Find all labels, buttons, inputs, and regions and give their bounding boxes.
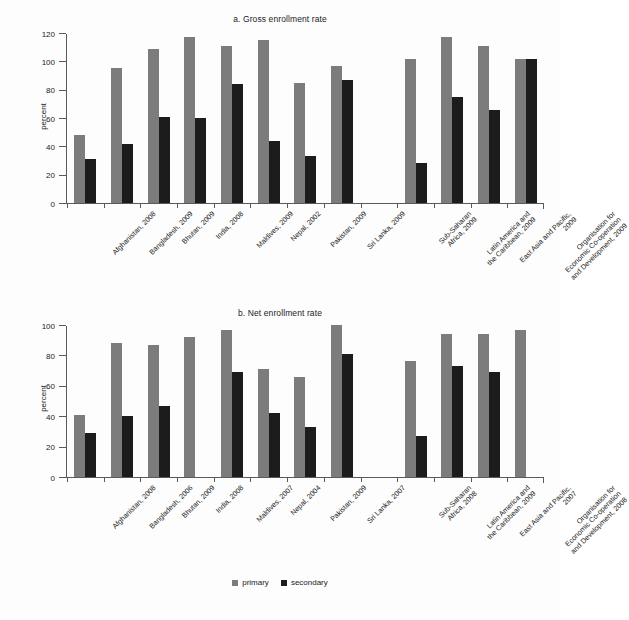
- bar-primary: [148, 49, 159, 203]
- bar-primary: [221, 46, 232, 203]
- bar-secondary: [122, 416, 133, 477]
- y-tick: 40: [59, 416, 66, 417]
- x-axis-label-group-a: Afghanistan, 2008Bangladesh, 2009Bhutan,…: [66, 206, 544, 296]
- bar-primary: [294, 377, 305, 477]
- y-tick: 60: [59, 118, 66, 119]
- bar-secondary: [232, 372, 243, 477]
- bar-secondary: [342, 354, 353, 477]
- bar-group: [507, 34, 544, 203]
- x-axis-label: Sri Lanka, 2009: [366, 210, 408, 252]
- y-tick-label: 40: [46, 412, 55, 421]
- bar-group: [214, 34, 251, 203]
- bar-primary: [184, 337, 195, 477]
- bar-group: [250, 326, 287, 477]
- legend-swatch-primary-icon: [232, 580, 238, 586]
- y-tick: 60: [59, 386, 66, 387]
- bar-primary: [148, 345, 159, 477]
- y-tick-label: 80: [46, 86, 55, 95]
- x-axis-label: Sub-Saharan Africa, 2009: [437, 210, 479, 252]
- y-tick: 100: [59, 61, 66, 62]
- bar-primary: [441, 334, 452, 477]
- bar-secondary: [305, 156, 316, 203]
- bar-secondary: [305, 427, 316, 477]
- bar-secondary: [489, 372, 500, 477]
- bar-group: [250, 34, 287, 203]
- y-tick-label: 80: [46, 351, 55, 360]
- bar-primary: [441, 37, 452, 203]
- bar-secondary: [85, 433, 96, 477]
- x-axis-label: Maldives, 2007: [255, 484, 295, 524]
- bar-group: [140, 34, 177, 203]
- bar-group: [214, 326, 251, 477]
- x-axis-line-b: [66, 477, 544, 478]
- y-tick: 80: [59, 90, 66, 91]
- bar-group-container-b: [67, 326, 544, 477]
- bar-primary: [331, 66, 342, 203]
- y-tick: 80: [59, 355, 66, 356]
- bar-primary: [221, 330, 232, 477]
- bar-primary: [294, 83, 305, 203]
- bar-group: [434, 326, 471, 477]
- legend-item-secondary: secondary: [281, 578, 328, 587]
- bar-secondary: [526, 59, 537, 204]
- bar-secondary: [452, 366, 463, 477]
- bar-primary: [74, 415, 85, 477]
- bar-secondary: [489, 110, 500, 204]
- x-axis-line-a: [66, 203, 544, 204]
- bar-primary: [515, 59, 526, 204]
- legend-item-primary: primary: [232, 578, 269, 587]
- chart-panel-net-enrollment: b. Net enrollment rate percent 020406080…: [0, 308, 560, 578]
- bar-primary: [74, 135, 85, 203]
- y-tick: 0: [59, 203, 66, 204]
- bar-primary: [405, 361, 416, 477]
- bar-group: [397, 34, 434, 203]
- bar-group: [471, 326, 508, 477]
- bar-secondary: [232, 84, 243, 203]
- bar-group: [471, 34, 508, 203]
- legend-swatch-secondary-icon: [281, 580, 287, 586]
- bar-primary: [258, 40, 269, 203]
- bar-group: [287, 326, 324, 477]
- y-tick: 20: [59, 447, 66, 448]
- y-tick-label: 0: [51, 473, 55, 482]
- chart-panel-gross-enrollment: a. Gross enrollment rate percent 0204060…: [0, 14, 560, 304]
- y-tick-label: 100: [42, 321, 55, 330]
- bar-group: [507, 326, 544, 477]
- bar-primary: [111, 68, 122, 203]
- x-axis-label: Maldives, 2009: [255, 210, 295, 250]
- plot-area-a: percent 020406080100120: [66, 34, 544, 204]
- bar-primary: [258, 369, 269, 477]
- chart-title-b: b. Net enrollment rate: [0, 308, 560, 318]
- y-tick: 20: [59, 175, 66, 176]
- bar-secondary: [122, 144, 133, 204]
- y-tick-label: 40: [46, 142, 55, 151]
- bar-secondary: [269, 141, 280, 203]
- bar-group: [287, 34, 324, 203]
- y-tick-label: 20: [46, 171, 55, 180]
- bar-group: [67, 34, 104, 203]
- bar-secondary: [195, 118, 206, 203]
- y-tick-label: 60: [46, 382, 55, 391]
- bar-primary: [111, 343, 122, 477]
- bar-group: [104, 326, 141, 477]
- bar-primary: [405, 59, 416, 204]
- bar-group: [177, 326, 214, 477]
- bar-primary: [478, 334, 489, 477]
- bar-primary: [331, 325, 342, 477]
- bar-secondary: [452, 97, 463, 203]
- bar-secondary: [159, 117, 170, 203]
- legend-label-primary: primary: [242, 578, 269, 587]
- bar-secondary: [159, 406, 170, 477]
- x-axis-label: Sri Lanka, 2007: [366, 484, 408, 526]
- x-axis-label: India, 2008: [215, 484, 246, 515]
- bar-group: [67, 326, 104, 477]
- legend-label-secondary: secondary: [291, 578, 328, 587]
- x-axis-label: Pakistan, 2009: [328, 210, 368, 250]
- y-tick-label: 120: [42, 29, 55, 38]
- chart-legend: primary secondary: [0, 578, 560, 587]
- bar-secondary: [416, 436, 427, 477]
- plot-area-b: percent 020406080100: [66, 326, 544, 478]
- bar-secondary: [416, 163, 427, 203]
- bar-group: [177, 34, 214, 203]
